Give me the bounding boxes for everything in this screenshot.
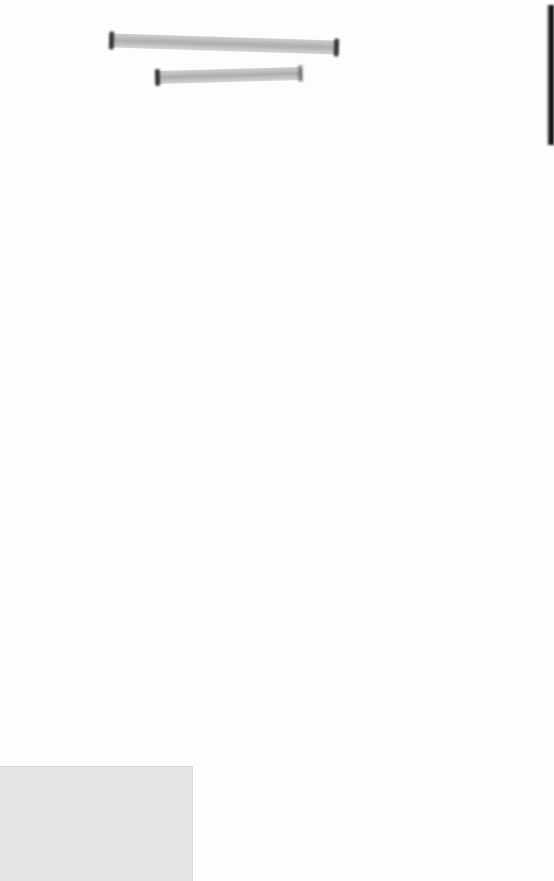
redacted-header-line-2: [redacted] <box>156 67 302 84</box>
redacted-header-line-1: [redacted] <box>110 33 338 54</box>
scan-edge-shadow <box>547 5 554 145</box>
blank-gray-region <box>0 766 193 881</box>
